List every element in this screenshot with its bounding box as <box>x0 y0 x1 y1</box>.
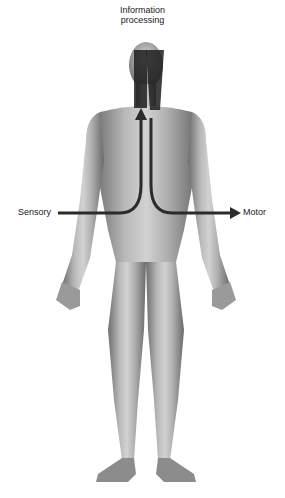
motor-label: Motor <box>243 207 266 217</box>
processing-band-left <box>134 50 147 108</box>
right-arm <box>188 112 230 292</box>
motor-arrowhead-icon <box>230 207 241 219</box>
human-figure-illustration <box>0 0 285 498</box>
right-leg <box>146 262 184 460</box>
left-foot <box>96 458 136 482</box>
left-arm <box>62 112 104 292</box>
torso <box>94 106 198 262</box>
sensory-label: Sensory <box>18 207 51 217</box>
right-foot <box>156 458 196 482</box>
left-leg <box>108 262 146 460</box>
